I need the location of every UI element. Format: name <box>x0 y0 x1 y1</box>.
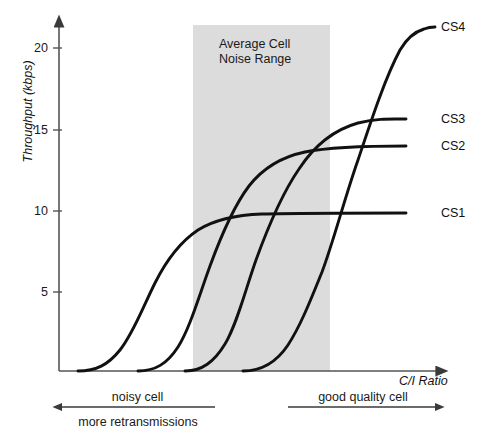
series-label-cs1: CS1 <box>441 206 465 221</box>
series-label-cs2: CS2 <box>441 139 465 154</box>
series-label-cs4: CS4 <box>441 20 465 35</box>
y-tick-label-20: 20 <box>10 41 48 56</box>
more-retransmissions-label: more retransmissions <box>48 415 228 430</box>
band-label-line2: Noise Range <box>219 52 291 67</box>
y-tick-label-10: 10 <box>10 204 48 219</box>
y-axis-title: Throughput (kbps) <box>21 45 36 177</box>
series-label-cs3: CS3 <box>441 112 465 127</box>
average-cell-noise-range-label: Average Cell Noise Range <box>219 37 291 67</box>
chart-canvas: Throughput (kbps) C/I Ratio 20 15 10 5 A… <box>0 0 478 437</box>
band-label-line1: Average Cell <box>219 37 290 51</box>
y-tick-label-5: 5 <box>10 285 48 300</box>
average-cell-noise-range-band <box>193 25 330 371</box>
noisy-cell-label: noisy cell <box>60 390 215 405</box>
good-quality-cell-label: good quality cell <box>288 390 438 405</box>
x-axis-title: C/I Ratio <box>399 374 448 389</box>
y-tick-label-15: 15 <box>10 123 48 138</box>
